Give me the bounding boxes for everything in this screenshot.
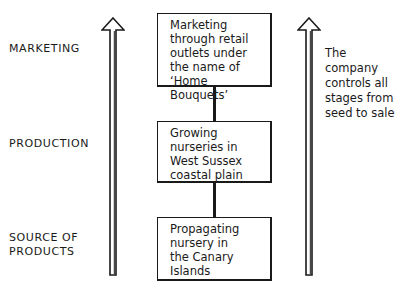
level-label-production: PRODUCTION	[9, 137, 89, 151]
source-box: Propagating nursery in the Canary Island…	[157, 217, 272, 281]
level-label-source: SOURCE OF PRODUCTS	[9, 231, 78, 259]
level-label-marketing: MARKETING	[9, 42, 80, 56]
company-control-note: The company controls all stages from see…	[325, 46, 402, 121]
marketing-box: Marketing through retail outlets under t…	[157, 13, 272, 87]
left-arrow-up-icon	[101, 17, 125, 277]
connector-line-bottom	[213, 182, 216, 218]
right-arrow-up-icon	[297, 17, 321, 277]
production-box: Growing nurseries in West Sussex coastal…	[157, 121, 272, 183]
